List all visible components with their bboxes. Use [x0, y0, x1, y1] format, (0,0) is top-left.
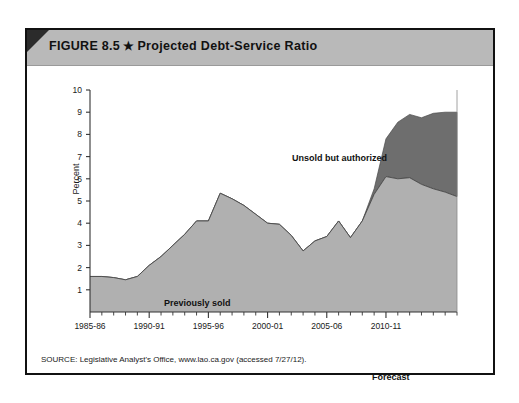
y-axis-tick-label: 10 — [27, 85, 82, 95]
x-axis-tick-label: 2000-01 — [242, 321, 294, 331]
annotation-unsold-but-authorized: Unsold but authorized — [292, 153, 387, 163]
y-axis-tick-label: 1 — [27, 285, 82, 295]
y-axis-tick-label: 3 — [27, 240, 82, 250]
y-axis-tick-label: 6 — [27, 174, 82, 184]
annotation-previously-sold: Previously sold — [164, 298, 231, 308]
figure-number: FIGURE 8.5 — [49, 39, 120, 53]
figure-box: FIGURE 8.5★Projected Debt-Service Ratio … — [25, 28, 495, 375]
forecast-label: Forecast — [372, 372, 410, 382]
x-axis-tick-label: 2005-06 — [301, 321, 353, 331]
figure-title: Projected Debt-Service Ratio — [137, 39, 317, 53]
figure-title-bar: FIGURE 8.5★Projected Debt-Service Ratio — [27, 30, 493, 66]
x-axis-tick-label: 1995-96 — [182, 321, 234, 331]
y-axis-tick-label: 4 — [27, 218, 82, 228]
area-chart — [27, 66, 497, 341]
y-axis-tick-label: 8 — [27, 129, 82, 139]
y-axis-tick-label: 2 — [27, 263, 82, 273]
star-icon: ★ — [120, 39, 137, 53]
source-note: SOURCE: Legislative Analyst's Office, ww… — [41, 355, 307, 364]
y-axis-tick-label: 7 — [27, 152, 82, 162]
x-axis-tick-label: 1990-91 — [123, 321, 175, 331]
page-title: FIGURE 8.5★Projected Debt-Service Ratio — [49, 39, 317, 53]
x-axis-tick-label: 1985-86 — [64, 321, 116, 331]
corner-fold-icon — [27, 30, 49, 52]
y-axis-tick-label: 5 — [27, 196, 82, 206]
chart-area: Percent Previously sold Unsold but autho… — [27, 66, 493, 341]
x-axis-tick-label: 2010-11 — [360, 321, 412, 331]
y-axis-tick-label: 9 — [27, 107, 82, 117]
